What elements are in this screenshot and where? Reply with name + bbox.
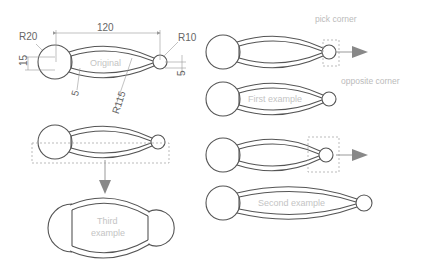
dim-big-radius-label: R20 [19, 31, 38, 42]
dim-offset-label: 5 [176, 70, 187, 76]
opposite-corner-label: opposite corner [341, 76, 400, 86]
selection-window-second [308, 137, 339, 172]
third-example-label-1: Third [97, 216, 118, 226]
original-label: Original [90, 58, 121, 68]
first-example-label: First example [248, 94, 302, 104]
dim-height-label: 15 [18, 54, 29, 66]
pick-corner-shape [206, 35, 336, 69]
stretch-diagram: 120 R20 R10 15 5 5 R115 Original pick co… [0, 0, 423, 267]
third-example-label-2: example [91, 228, 125, 238]
dim-length-label: 120 [97, 22, 114, 33]
dim-small-radius-label: R10 [178, 32, 197, 43]
dim-wall-label: 5 [69, 89, 81, 98]
second-source-shape [206, 138, 333, 172]
pick-corner-label: pick corner [315, 14, 357, 24]
selection-window [323, 40, 339, 66]
arrow-down-icon [99, 180, 111, 194]
arrow-right-icon-2 [352, 149, 368, 161]
third-source-shape [38, 125, 165, 159]
dim-arc-radius-label: R115 [110, 89, 128, 115]
second-example-label: Second example [258, 198, 325, 208]
arrow-right-icon [352, 46, 368, 58]
